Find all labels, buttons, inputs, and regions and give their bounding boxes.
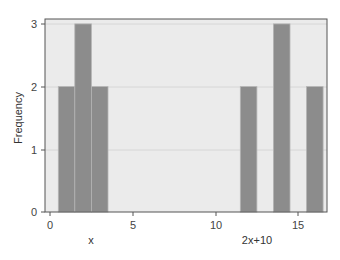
y-tick-label: 0 — [31, 206, 37, 218]
x-axis: 0 5 10 15 x 2x+10 — [47, 212, 304, 246]
x-tick-label: 5 — [130, 219, 136, 231]
group-label-2x-plus-10: 2x+10 — [242, 234, 272, 246]
histogram-bar — [75, 24, 92, 212]
x-tick-label: 10 — [210, 219, 222, 231]
y-tick-label: 3 — [31, 18, 37, 30]
histogram-bar — [240, 87, 257, 212]
histogram-bar — [91, 87, 108, 212]
y-tick-label: 2 — [31, 81, 37, 93]
group-label-x: x — [88, 234, 94, 246]
y-axis: 0 1 2 3 Frequency — [12, 18, 45, 218]
y-tick-label: 1 — [31, 144, 37, 156]
histogram-bar — [273, 24, 290, 212]
histogram-bar — [307, 87, 324, 212]
histogram-chart: 0 1 2 3 Frequency 0 5 10 15 x 2x+10 — [0, 0, 340, 260]
y-axis-label: Frequency — [12, 92, 24, 144]
histogram-bar — [58, 87, 75, 212]
x-tick-label: 15 — [292, 219, 304, 231]
x-tick-label: 0 — [47, 219, 53, 231]
